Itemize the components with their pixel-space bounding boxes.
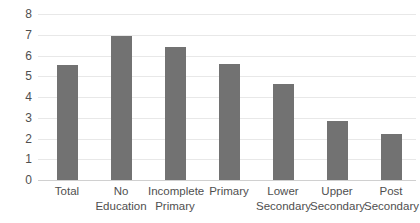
x-axis-tick-label: Total: [40, 184, 94, 199]
y-axis-tick-label: 3: [6, 112, 32, 124]
y-axis-tick-label: 0: [6, 174, 32, 186]
bar-slot: [40, 14, 94, 180]
bar[interactable]: [57, 65, 78, 180]
bar-chart: 012345678 TotalNoEducationIncompletePrim…: [0, 0, 420, 223]
bar[interactable]: [327, 121, 348, 180]
x-axis-tick-label: LowerSecondary: [256, 184, 310, 214]
x-axis-tick-label-line1: No: [114, 185, 129, 197]
x-axis-line: [38, 180, 416, 181]
x-axis-tick-label-line1: Incomplete: [148, 185, 204, 197]
bar-slot: [256, 14, 310, 180]
x-axis-tick-label-line2: Education: [94, 199, 148, 214]
x-axis-tick-label-line1: Total: [55, 185, 79, 197]
y-axis-tick-label: 8: [6, 8, 32, 20]
x-axis-tick-label-line2: Secondary: [364, 199, 418, 214]
y-axis-tick-label: 6: [6, 50, 32, 62]
x-axis-tick-label: NoEducation: [94, 184, 148, 214]
bar[interactable]: [165, 47, 186, 180]
bar[interactable]: [381, 134, 402, 180]
x-axis-tick-label: Primary: [202, 184, 256, 199]
bar[interactable]: [273, 84, 294, 180]
plot-area: [38, 14, 416, 180]
y-axis-tick-label: 1: [6, 153, 32, 165]
bar[interactable]: [111, 36, 132, 180]
y-axis: 012345678: [0, 14, 32, 180]
bar[interactable]: [219, 64, 240, 180]
bar-slot: [310, 14, 364, 180]
x-axis-tick-label-line2: Secondary: [310, 199, 364, 214]
x-axis-labels: TotalNoEducationIncompletePrimaryPrimary…: [38, 184, 416, 223]
x-axis-tick-label-line2: Secondary: [256, 199, 310, 214]
y-axis-tick-label: 4: [6, 91, 32, 103]
x-axis-tick-label: IncompletePrimary: [148, 184, 202, 214]
x-axis-tick-label-line1: Post: [379, 185, 402, 197]
bar-slot: [364, 14, 418, 180]
x-axis-tick-label-line1: Primary: [209, 185, 249, 197]
x-axis-tick-label-line1: Upper: [321, 185, 352, 197]
x-axis-tick-label-line2: Primary: [148, 199, 202, 214]
x-axis-tick-label: UpperSecondary: [310, 184, 364, 214]
bar-slot: [94, 14, 148, 180]
y-axis-tick-label: 5: [6, 70, 32, 82]
bar-slot: [202, 14, 256, 180]
x-axis-tick-label: PostSecondary: [364, 184, 418, 214]
bar-slot: [148, 14, 202, 180]
x-axis-tick-label-line1: Lower: [267, 185, 298, 197]
y-axis-tick-label: 2: [6, 133, 32, 145]
y-axis-tick-label: 7: [6, 29, 32, 41]
